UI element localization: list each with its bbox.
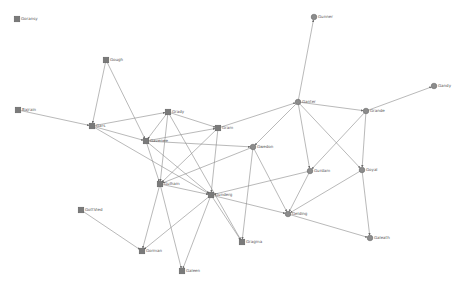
node-gram[interactable]: Gram xyxy=(215,125,233,131)
node-gandy[interactable]: Gandy xyxy=(431,83,451,89)
edge-gunderg-gorman xyxy=(144,195,211,249)
node-gunderg[interactable]: Gunderg xyxy=(208,192,233,198)
node-label: Gough xyxy=(110,57,124,62)
node-galeen[interactable]: Galeen xyxy=(179,268,200,274)
circle-node-icon[interactable] xyxy=(363,108,369,114)
node-gavenee[interactable]: Gavenee xyxy=(143,138,168,144)
square-node-icon[interactable] xyxy=(14,16,20,22)
edge-layer xyxy=(18,20,431,268)
edge-grande-goyal xyxy=(362,111,366,167)
circle-node-icon[interactable] xyxy=(285,211,291,217)
edge-gelding-galeath xyxy=(288,214,367,237)
square-node-icon[interactable] xyxy=(157,181,163,187)
node-label: Gunner xyxy=(318,14,333,19)
node-bajrain[interactable]: Bajrain xyxy=(15,107,36,113)
node-gwedon[interactable]: Gwedon xyxy=(250,144,274,150)
node-label: Grande xyxy=(370,108,385,113)
node-gough[interactable]: Gough xyxy=(103,57,123,63)
node-label: Grady xyxy=(172,109,185,114)
edge-gunderg-gelding xyxy=(211,195,285,213)
edge-gurdam-gunderg xyxy=(214,171,310,194)
square-node-icon[interactable] xyxy=(165,109,171,115)
node-gelding[interactable]: Gelding xyxy=(285,211,308,217)
edge-ganter-goyal xyxy=(298,102,360,168)
square-node-icon[interactable] xyxy=(143,138,149,144)
node-gragma[interactable]: Gragma xyxy=(239,239,262,245)
square-node-icon[interactable] xyxy=(215,125,221,131)
edge-gottvied-gorman xyxy=(81,210,140,249)
node-gulham[interactable]: Gulham xyxy=(157,181,180,187)
node-galeath[interactable]: Galeath xyxy=(367,235,390,241)
edge-gram-gulham xyxy=(162,128,218,182)
node-gurdam[interactable]: Gurdam xyxy=(307,168,330,174)
node-label: Gulham xyxy=(164,181,180,186)
circle-node-icon[interactable] xyxy=(307,168,313,174)
square-node-icon[interactable] xyxy=(208,192,214,198)
circle-node-icon[interactable] xyxy=(431,83,437,89)
circle-node-icon[interactable] xyxy=(311,14,317,20)
node-gorman[interactable]: Gorman xyxy=(139,248,162,254)
edge-gough-gavenee xyxy=(106,60,145,138)
node-label: Goransy xyxy=(21,16,38,21)
node-label: Gelding xyxy=(292,211,308,216)
node-label: Gunderg xyxy=(215,192,233,197)
square-node-icon[interactable] xyxy=(103,57,109,63)
edge-goyal-galeath xyxy=(362,170,370,235)
node-label: Gavenee xyxy=(150,138,168,143)
edge-gwedon-gragma xyxy=(242,147,253,239)
node-label: Gwedon xyxy=(257,144,274,149)
node-gottvied[interactable]: GottVied xyxy=(78,207,103,213)
square-node-icon[interactable] xyxy=(15,107,21,113)
edge-gwedon-gelding xyxy=(253,147,287,211)
edge-gwedon-gulham xyxy=(163,147,253,183)
node-label: Gram xyxy=(222,125,233,130)
edge-gurdam-gelding xyxy=(289,171,310,211)
node-label: Goyal xyxy=(366,167,377,172)
node-label: Gorman xyxy=(146,248,162,253)
edge-gars-gunderg xyxy=(92,126,208,193)
node-goransy[interactable]: Goransy xyxy=(14,16,38,22)
square-node-icon[interactable] xyxy=(78,207,84,213)
edge-grady-gragma xyxy=(168,112,241,239)
node-label: Gragma xyxy=(246,239,263,244)
circle-node-icon[interactable] xyxy=(367,235,373,241)
node-label: Gandy xyxy=(438,83,452,88)
edge-ganter-gurdam xyxy=(298,102,309,168)
square-node-icon[interactable] xyxy=(89,123,95,129)
node-ganter[interactable]: Ganter xyxy=(295,99,316,105)
square-node-icon[interactable] xyxy=(179,268,185,274)
edge-grande-gurdam xyxy=(312,111,366,169)
node-label: Gars xyxy=(96,123,105,128)
node-label: Galeen xyxy=(186,268,201,273)
node-grande[interactable]: Grande xyxy=(363,108,385,114)
node-grady[interactable]: Grady xyxy=(165,109,185,115)
edge-gram-ganter xyxy=(218,103,295,128)
node-layer: GoransyGoughBajrainGarsGradyGaveneeGramG… xyxy=(14,14,451,274)
edge-gough-gars xyxy=(93,60,106,123)
circle-node-icon[interactable] xyxy=(359,167,365,173)
edge-ganter-gunner xyxy=(298,20,313,102)
edge-ganter-gwedon xyxy=(255,102,298,145)
edge-gunderg-gragma xyxy=(211,195,240,239)
node-label: Gurdam xyxy=(314,168,330,173)
edge-gulham-galeen xyxy=(160,184,181,268)
edge-grady-gavenee xyxy=(148,112,168,139)
edge-gram-gunderg xyxy=(211,128,218,192)
node-label: Ganter xyxy=(302,99,316,104)
edge-gavenee-gulham xyxy=(146,141,159,181)
node-label: GottVied xyxy=(85,207,103,212)
circle-node-icon[interactable] xyxy=(295,99,301,105)
node-label: Bajrain xyxy=(22,107,37,112)
node-gars[interactable]: Gars xyxy=(89,123,105,129)
edge-grande-gandy xyxy=(366,87,431,111)
node-gunner[interactable]: Gunner xyxy=(311,14,333,20)
node-goyal[interactable]: Goyal xyxy=(359,167,377,173)
square-node-icon[interactable] xyxy=(239,239,245,245)
circle-node-icon[interactable] xyxy=(250,144,256,150)
square-node-icon[interactable] xyxy=(139,248,145,254)
node-label: Galeath xyxy=(374,235,390,240)
edge-grady-gulham xyxy=(160,112,168,181)
edge-goyal-gelding xyxy=(291,170,362,212)
network-graph: GoransyGoughBajrainGarsGradyGaveneeGramG… xyxy=(0,0,463,288)
